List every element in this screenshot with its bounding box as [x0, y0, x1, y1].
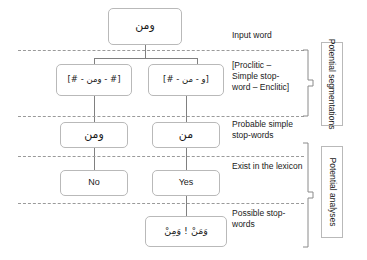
node-stopword-left[interactable]: ومن: [60, 122, 128, 148]
node-segmentation-left[interactable]: [# - ومن - #]: [56, 64, 132, 96]
node-lexicon-yes[interactable]: Yes: [152, 170, 220, 196]
node-lexicon-no[interactable]: No: [60, 170, 128, 196]
node-lexicon-yes-label: Yes: [179, 178, 194, 188]
connector-seg-right-to-stopword-right: [186, 96, 187, 122]
node-stopword-right[interactable]: من: [152, 122, 220, 148]
node-stopword-left-label: ومن: [84, 129, 104, 141]
node-possible-stopwords[interactable]: وَمَنْ ! وَمِنْ: [145, 216, 227, 247]
group-label-potential-segmentations: Potential segmentations: [321, 42, 343, 126]
group-label-potential-analyses: Potential analyses: [321, 146, 343, 238]
connector-input-to-split: [145, 45, 146, 58]
separator-input-segmentation: [18, 50, 304, 51]
stage-label-possible-stop-words: Possible stop-words: [232, 208, 294, 230]
connector-seg-left-to-stopword-left: [94, 96, 95, 122]
separator-stopword-lexicon: [18, 156, 304, 157]
separator-segmentation-stopword: [18, 116, 304, 117]
node-input-word-label: ومن: [135, 20, 155, 32]
node-segmentation-right[interactable]: [و - من - #]: [148, 64, 224, 96]
connector-stopword-right-to-lexicon-right: [186, 148, 187, 170]
stage-label-potential-segmentations: [Proclitic – Simple stop-word – Enclitic…: [232, 60, 290, 94]
node-input-word[interactable]: ومن: [108, 8, 182, 45]
node-stopword-right-label: من: [179, 129, 193, 141]
stage-label-exist-in-the-lexicon: Exist in the lexicon: [232, 161, 308, 172]
group-label-potential-analyses-text: Potential analyses: [327, 158, 337, 227]
diagram-canvas: ومن [# - ومن - #] [و - من - #] ومن من No…: [0, 0, 367, 260]
node-possible-stopwords-label: وَمَنْ ! وَمِنْ: [164, 226, 208, 236]
connector-yes-to-possible: [186, 196, 187, 216]
connector-stopword-left-to-lexicon-left: [94, 148, 95, 170]
stage-label-probable-simple-stop-words: Probable simple stop-words: [232, 119, 304, 141]
group-label-potential-segmentations-text: Potential segmentations: [327, 39, 337, 130]
node-lexicon-no-label: No: [88, 178, 100, 188]
brace-potential-analyses: [302, 142, 314, 248]
node-segmentation-right-label: [و - من - #]: [163, 75, 209, 84]
stage-label-input-word: Input word: [232, 30, 304, 41]
brace-potential-segmentations: [302, 49, 314, 117]
connector-split-bar: [94, 58, 197, 59]
separator-lexicon-possible: [18, 203, 304, 204]
node-segmentation-left-label: [# - ومن - #]: [68, 75, 121, 84]
